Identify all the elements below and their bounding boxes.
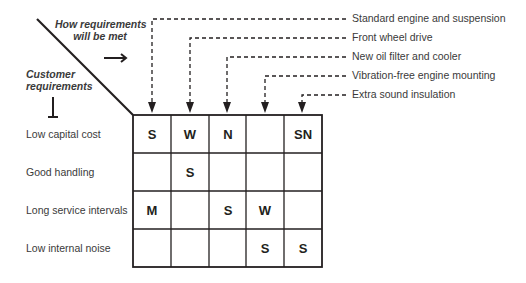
matrix-cell: S bbox=[209, 191, 247, 229]
matrix-cell bbox=[246, 115, 284, 153]
row-label-1: Low capital cost bbox=[26, 128, 101, 140]
matrix-cell: S bbox=[284, 229, 322, 267]
arrowhead-col-4 bbox=[261, 102, 269, 113]
arrowhead-col-1 bbox=[148, 102, 156, 113]
matrix-cell bbox=[171, 229, 209, 267]
matrix-cell bbox=[209, 153, 247, 191]
columns-heading-line-1: How requirements bbox=[55, 18, 145, 30]
matrix-cell: W bbox=[246, 191, 284, 229]
matrix-cell bbox=[246, 153, 284, 191]
rows-heading-line-1: Customer bbox=[26, 68, 93, 80]
connector-col-1 bbox=[152, 19, 346, 104]
down-arrow-icon bbox=[48, 97, 58, 117]
column-label-3: New oil filter and cooler bbox=[352, 50, 461, 62]
row-label-3: Long service intervals bbox=[26, 204, 128, 216]
matrix-cell: W bbox=[171, 115, 209, 153]
matrix-cell bbox=[209, 229, 247, 267]
matrix-cell: S bbox=[171, 153, 209, 191]
row-label-4: Low internal noise bbox=[26, 242, 111, 254]
arrowhead-col-5 bbox=[298, 102, 306, 113]
matrix-cell: N bbox=[209, 115, 247, 153]
arrowhead-col-3 bbox=[223, 102, 231, 113]
matrix-cell bbox=[284, 153, 322, 191]
matrix-cell: S bbox=[246, 229, 284, 267]
column-label-2: Front wheel drive bbox=[352, 31, 433, 43]
connector-col-2 bbox=[190, 38, 346, 104]
row-label-2: Good handling bbox=[26, 166, 94, 178]
matrix-cell bbox=[133, 229, 171, 267]
arrowhead-col-2 bbox=[186, 102, 194, 113]
column-label-4: Vibration-free engine mounting bbox=[352, 69, 495, 81]
rows-heading: Customer requirements bbox=[26, 68, 93, 92]
matrix-cell bbox=[284, 191, 322, 229]
connector-col-3 bbox=[227, 57, 346, 104]
right-arrow-icon bbox=[104, 54, 126, 62]
rows-heading-line-2: requirements bbox=[26, 80, 93, 92]
columns-heading-line-2: will be met bbox=[55, 30, 145, 42]
connector-col-5 bbox=[302, 95, 346, 104]
connector-col-4 bbox=[265, 76, 346, 104]
column-label-1: Standard engine and suspension bbox=[352, 12, 506, 24]
matrix-cell: S bbox=[133, 115, 171, 153]
matrix-cell bbox=[133, 153, 171, 191]
column-label-5: Extra sound insulation bbox=[352, 88, 455, 100]
matrix-cell: M bbox=[133, 191, 171, 229]
columns-heading: How requirements will be met bbox=[55, 18, 145, 42]
matrix-cell bbox=[171, 191, 209, 229]
matrix-cell: SN bbox=[284, 115, 322, 153]
